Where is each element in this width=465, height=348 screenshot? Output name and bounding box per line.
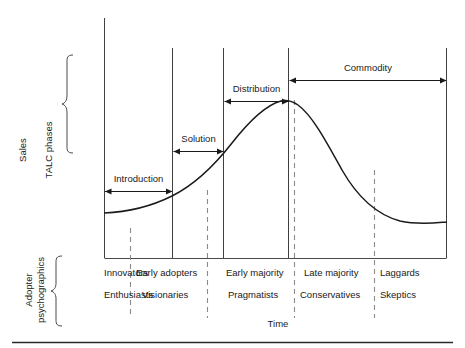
phase-arrow-commodity: Commodity xyxy=(290,62,447,81)
commodity-label: Commodity xyxy=(344,62,392,73)
sales-curve xyxy=(104,101,447,224)
phase-boundary-lines xyxy=(105,18,447,258)
adopter-label-late-majority: Late majority xyxy=(304,267,359,278)
psychographic-label-visionaries: Visionaries xyxy=(142,289,189,300)
talc-phases-brace xyxy=(62,55,73,153)
adopter-psychographics-label-line2: psychographics xyxy=(35,257,46,323)
phase-arrow-solution: Solution xyxy=(174,133,224,152)
solution-label: Solution xyxy=(181,133,215,144)
phase-arrow-distribution: Distribution xyxy=(225,83,289,102)
adopter-label-early-adopters: Early adopters xyxy=(136,267,198,278)
adopter-psychographics-brace xyxy=(51,256,62,326)
y-axis-label-sales: Sales xyxy=(17,138,28,162)
introduction-label: Introduction xyxy=(114,173,164,184)
psychographic-row: Enthusiasts Visionaries Pragmatists Cons… xyxy=(104,289,416,300)
phase-arrow-introduction: Introduction xyxy=(105,173,172,192)
talc-figure: Introduction Solution Distribution Commo… xyxy=(0,0,465,348)
distribution-label: Distribution xyxy=(233,83,281,94)
adopter-segment-dividers xyxy=(131,100,375,318)
psychographic-label-pragmatists: Pragmatists xyxy=(228,289,278,300)
adopter-label-early-majority: Early majority xyxy=(226,267,284,278)
adopter-label-laggards: Laggards xyxy=(380,267,420,278)
psychographic-label-conservatives: Conservatives xyxy=(300,289,360,300)
talc-chart-svg: Introduction Solution Distribution Commo… xyxy=(0,0,465,348)
talc-phases-label: TALC phases xyxy=(43,121,54,178)
psychographic-label-skeptics: Skeptics xyxy=(380,289,416,300)
x-axis-label-time: Time xyxy=(268,318,289,329)
adopter-psychographics-label-line1: Adopter xyxy=(23,273,34,306)
adopter-row: Innovators Early adopters Early majority… xyxy=(104,267,420,278)
